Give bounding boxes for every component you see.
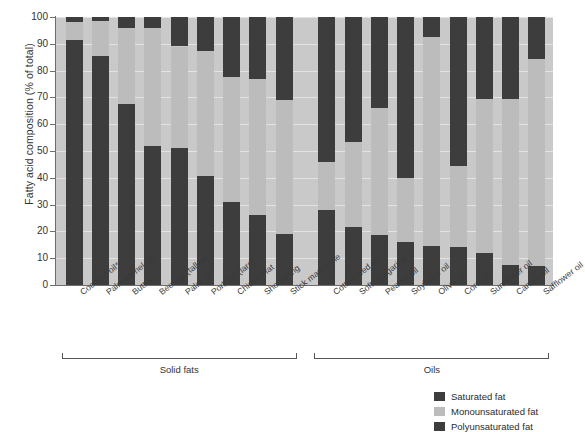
bar-sunflower-oil[interactable] — [476, 17, 493, 285]
legend-swatch — [434, 392, 445, 401]
bar-segment-poly — [144, 17, 161, 28]
bar-segment-mono — [423, 37, 440, 246]
group-label: Oils — [314, 364, 549, 375]
group-bracket — [62, 353, 297, 359]
group-label: Solid fats — [62, 364, 297, 375]
bar-butter[interactable] — [118, 17, 135, 285]
legend-item[interactable]: Saturated fat — [434, 390, 538, 403]
legend-label: Monounsaturated fat — [451, 406, 538, 417]
bar-segment-poly — [223, 17, 240, 77]
plot-area — [56, 17, 553, 285]
bar-segment-poly — [502, 17, 519, 99]
bar-segment-mono — [197, 51, 214, 177]
bar-segment-poly — [450, 17, 467, 166]
bar-segment-poly — [345, 17, 362, 142]
bar-segment-mono — [450, 166, 467, 248]
bar-cottonseed-oil[interactable] — [318, 17, 335, 285]
bar-chicken-fat[interactable] — [223, 17, 240, 285]
bar-palm-oil[interactable] — [171, 17, 188, 285]
y-tick-mark — [50, 285, 55, 286]
y-tick-label: 80 — [8, 65, 48, 76]
bar-segment-poly — [276, 17, 293, 100]
bar-segment-sat — [66, 40, 83, 285]
y-tick-mark — [50, 205, 55, 206]
bar-segment-mono — [371, 108, 388, 235]
bar-segment-mono — [397, 178, 414, 242]
bar-stick-margarine[interactable] — [276, 17, 293, 285]
bar-palm-kernel-oil[interactable] — [92, 17, 109, 285]
bar-segment-poly — [371, 17, 388, 108]
bar-segment-poly — [528, 17, 545, 59]
bar-soft-margarine[interactable] — [345, 17, 362, 285]
bar-peanut-oil[interactable] — [371, 17, 388, 285]
bar-segment-mono — [66, 22, 83, 39]
y-tick-mark — [50, 178, 55, 179]
bar-segment-mono — [171, 47, 188, 149]
bar-corn-oil[interactable] — [450, 17, 467, 285]
y-tick-label: 40 — [8, 172, 48, 183]
legend: Saturated fatMonounsaturated fatPolyunsa… — [434, 390, 538, 432]
bar-segment-poly — [423, 17, 440, 37]
bar-segment-poly — [476, 17, 493, 99]
y-tick-label: 70 — [8, 91, 48, 102]
y-tick-label: 90 — [8, 38, 48, 49]
bar-segment-mono — [476, 99, 493, 253]
bar-segment-poly — [118, 17, 135, 28]
bar-segment-mono — [144, 28, 161, 146]
y-tick-label: 100 — [8, 11, 48, 22]
bar-canola-oil[interactable] — [502, 17, 519, 285]
bar-segment-sat — [118, 104, 135, 285]
y-tick-label: 50 — [8, 145, 48, 156]
bar-segment-sat — [92, 56, 109, 285]
bar-segment-mono — [118, 28, 135, 104]
bar-segment-poly — [197, 17, 214, 51]
bar-segment-mono — [223, 77, 240, 202]
bar-segment-poly — [92, 17, 109, 21]
bar-segment-mono — [276, 100, 293, 234]
y-tick-mark — [50, 231, 55, 232]
legend-item[interactable]: Monounsaturated fat — [434, 405, 538, 418]
legend-swatch — [434, 407, 445, 416]
y-tick-label: 0 — [8, 279, 48, 290]
bar-segment-mono — [502, 99, 519, 265]
bar-segment-mono — [528, 59, 545, 267]
legend-item[interactable]: Polyunsaturated fat — [434, 420, 538, 432]
bar-segment-mono — [249, 79, 266, 216]
bar-segment-mono — [92, 21, 109, 56]
y-tick-mark — [50, 258, 55, 259]
bar-pork-fat-lard[interactable] — [197, 17, 214, 285]
y-tick-label: 60 — [8, 118, 48, 129]
y-tick-mark — [50, 44, 55, 45]
y-tick-mark — [50, 71, 55, 72]
bar-segment-poly — [397, 17, 414, 178]
y-tick-label: 10 — [8, 252, 48, 263]
bar-segment-poly — [318, 17, 335, 162]
bar-beef-fat-tallow[interactable] — [144, 17, 161, 285]
bar-safflower-oil[interactable] — [528, 17, 545, 285]
legend-label: Saturated fat — [451, 391, 505, 402]
group-bracket — [314, 353, 549, 359]
bar-segment-poly — [171, 17, 188, 46]
legend-label: Polyunsaturated fat — [451, 421, 533, 432]
bar-segment-mono — [318, 162, 335, 210]
y-tick-mark — [50, 97, 55, 98]
bar-soybean-oil[interactable] — [397, 17, 414, 285]
bar-segment-poly — [249, 17, 266, 79]
bar-shortening[interactable] — [249, 17, 266, 285]
bar-segment-sat — [171, 148, 188, 285]
bar-olive-oil[interactable] — [423, 17, 440, 285]
y-tick-label: 20 — [8, 225, 48, 236]
y-tick-mark — [50, 17, 55, 18]
legend-swatch — [434, 422, 445, 431]
bar-segment-poly — [66, 17, 83, 22]
y-tick-mark — [50, 151, 55, 152]
y-tick-mark — [50, 124, 55, 125]
bar-coconut-oil[interactable] — [66, 17, 83, 285]
bar-segment-mono — [345, 142, 362, 228]
y-tick-label: 30 — [8, 199, 48, 210]
